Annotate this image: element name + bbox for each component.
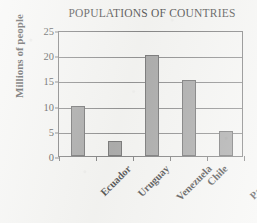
y-tick-label: 15 xyxy=(44,77,55,88)
x-tick-mark xyxy=(207,156,208,161)
bar-slot xyxy=(207,32,244,156)
bar-chile[interactable] xyxy=(182,80,196,156)
x-tick-label: Ecuador xyxy=(98,163,133,198)
bar-paraguay[interactable] xyxy=(219,131,233,156)
x-tick-mark xyxy=(133,156,134,161)
y-tick-label: 5 xyxy=(49,128,54,139)
bars-group xyxy=(59,32,242,156)
plot-area: 0510152025 xyxy=(58,31,243,157)
y-tick-label: 0 xyxy=(49,153,54,164)
bar-slot xyxy=(59,32,96,156)
x-tick-mark xyxy=(59,156,60,161)
bar-slot xyxy=(170,32,207,156)
x-axis-labels: EcuadorUruguayVenezuelaChileParaguay xyxy=(58,163,243,221)
bar-slot xyxy=(133,32,170,156)
y-tick-label: 25 xyxy=(44,27,55,38)
x-tick-label: Paraguay xyxy=(247,163,257,201)
x-tick-mark xyxy=(170,156,171,161)
y-tick-label: 20 xyxy=(44,52,55,63)
bar-slot xyxy=(96,32,133,156)
chart-title: POPULATIONS OF COUNTRIES xyxy=(52,7,252,19)
x-tick-mark xyxy=(244,156,245,161)
x-tick-label: Uruguay xyxy=(135,163,171,199)
bar-ecuador[interactable] xyxy=(71,106,85,156)
x-tick-mark xyxy=(96,156,97,161)
y-tick-label: 10 xyxy=(44,102,55,113)
bar-uruguay[interactable] xyxy=(108,141,122,156)
bar-chart: POPULATIONS OF COUNTRIES Millions of peo… xyxy=(0,0,257,223)
y-axis-title: Millions of people xyxy=(13,4,25,108)
bar-venezuela[interactable] xyxy=(145,55,159,156)
